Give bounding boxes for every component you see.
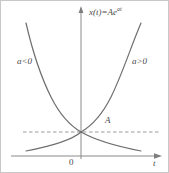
- t-axis-label: t: [153, 159, 156, 168]
- function-label: x(t)=Aeat: [89, 6, 122, 17]
- decay-annotation-label: a<0: [17, 57, 32, 66]
- amplitude-label: A: [105, 116, 111, 125]
- vertical-axis-arrowhead: [79, 6, 84, 13]
- plot-canvas: [1, 1, 169, 173]
- origin-label: 0: [69, 158, 74, 167]
- exponential-function-figure: x(t)=Aeat a<0 a>0 A 0 t: [0, 0, 169, 173]
- function-label-base: x(t)=Ae: [89, 7, 117, 17]
- function-label-exponent: at: [117, 6, 122, 12]
- growth-annotation-label: a>0: [132, 57, 147, 66]
